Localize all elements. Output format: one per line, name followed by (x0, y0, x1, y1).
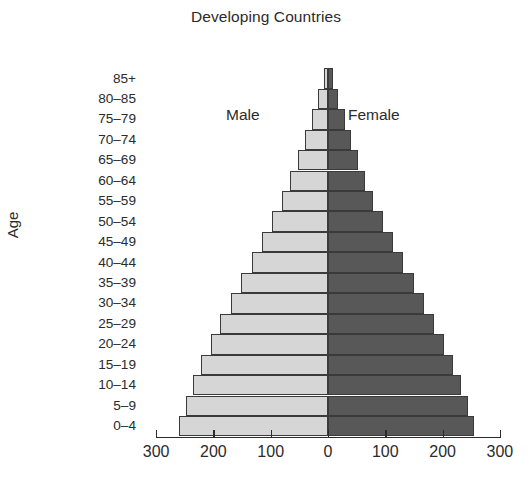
bar-male (186, 396, 328, 416)
x-axis-tick-label: 200 (413, 443, 473, 461)
pyramid-row (0, 171, 532, 191)
bar-male (305, 130, 328, 150)
x-axis-tick (271, 430, 272, 438)
x-axis-tick-label: 0 (298, 443, 358, 461)
pyramid-row (0, 130, 532, 150)
x-axis-tick-label: 300 (126, 443, 186, 461)
pyramid-row (0, 191, 532, 211)
bar-male (272, 211, 328, 231)
pyramid-row (0, 416, 532, 436)
pyramid-row (0, 293, 532, 313)
x-axis-tick (500, 430, 501, 438)
bar-male (298, 150, 328, 170)
plot-area: 0–45–910–1415–1920–2425–2930–3435–3940–4… (0, 0, 532, 478)
bar-female (328, 396, 468, 416)
x-axis-tick (213, 430, 214, 438)
pyramid-row (0, 232, 532, 252)
bar-male (220, 314, 328, 334)
pyramid-row (0, 252, 532, 272)
bar-female (328, 334, 444, 354)
pyramid-row (0, 375, 532, 395)
bar-male (201, 355, 328, 375)
pyramid-row (0, 150, 532, 170)
x-axis-tick (156, 430, 157, 438)
bar-female (328, 355, 453, 375)
bar-male (252, 252, 328, 272)
bar-female (328, 252, 403, 272)
bar-female (328, 89, 338, 109)
bar-male (193, 375, 328, 395)
bar-male (231, 293, 328, 313)
series-label-female: Female (348, 106, 400, 124)
bar-male (290, 171, 328, 191)
x-axis-tick-label: 100 (355, 443, 415, 461)
pyramid-row (0, 334, 532, 354)
bar-female (328, 150, 358, 170)
bar-female (328, 109, 345, 129)
x-axis-tick-label: 100 (241, 443, 301, 461)
bar-female (328, 314, 434, 334)
bar-female (328, 273, 414, 293)
bar-female (328, 191, 373, 211)
pyramid-row (0, 396, 532, 416)
bar-male (318, 89, 328, 109)
bar-male (211, 334, 328, 354)
bar-female (328, 416, 474, 436)
pyramid-row (0, 89, 532, 109)
bar-female (328, 171, 365, 191)
bar-male (312, 109, 328, 129)
bar-female (328, 232, 393, 252)
pyramid-row (0, 355, 532, 375)
bar-male (282, 191, 328, 211)
pyramid-row (0, 68, 532, 88)
pyramid-row (0, 314, 532, 334)
x-axis-tick-label: 200 (183, 443, 243, 461)
bar-male (179, 416, 328, 436)
pyramid-row (0, 211, 532, 231)
bars-container (0, 0, 532, 478)
bar-male (241, 273, 328, 293)
bar-female (328, 293, 424, 313)
pyramid-row (0, 273, 532, 293)
x-axis-tick (328, 430, 329, 438)
x-axis-tick (385, 430, 386, 438)
bar-female (328, 130, 351, 150)
pyramid-row (0, 109, 532, 129)
x-axis-tick-label: 300 (470, 443, 530, 461)
population-pyramid-chart: Developing Countries Age 0–45–910–1415–1… (0, 0, 532, 478)
bar-female (328, 375, 461, 395)
bar-male (262, 232, 328, 252)
x-axis-tick (443, 430, 444, 438)
series-label-male: Male (226, 106, 260, 124)
bar-female (328, 211, 383, 231)
bar-female (328, 68, 333, 88)
